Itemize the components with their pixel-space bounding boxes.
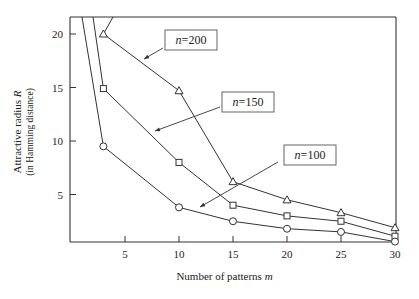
y-axis-label-sub: (in Hamming distance): [24, 88, 37, 176]
series-line-n-150: [93, 17, 395, 236]
circle-marker: [392, 238, 399, 245]
label-text-n-100: n=100: [295, 148, 326, 162]
circle-marker: [338, 228, 345, 235]
x-tick-label: 5: [122, 248, 128, 260]
y-tick-label: 5: [58, 189, 64, 201]
arrow-head-icon: [144, 55, 149, 59]
y-tick-label: 10: [52, 135, 64, 147]
chart-canvas: 510152025305101520 n=200n=150n=100: [0, 0, 419, 299]
y-axis-label: Attractive radius R (in Hamming distance…: [11, 88, 37, 176]
x-axis-label: Number of patterns m: [0, 270, 419, 282]
y-tick-label: 15: [52, 82, 64, 94]
x-axis-label-var: m: [265, 270, 273, 282]
triangle-marker: [175, 87, 183, 94]
x-tick-label: 20: [282, 248, 294, 260]
arrow-head-icon: [200, 203, 205, 207]
y-axis-label-var: R: [11, 90, 23, 97]
square-marker: [230, 202, 236, 208]
x-tick-label: 30: [390, 248, 402, 260]
arrow-line: [155, 107, 220, 131]
label-text-n-200: n=200: [176, 33, 207, 47]
y-tick-label: 20: [52, 28, 64, 40]
square-marker: [338, 218, 344, 224]
arrow-line: [200, 162, 278, 207]
annotations: n=200n=150n=100: [144, 30, 336, 207]
ticks: [70, 34, 395, 242]
square-marker: [100, 86, 106, 92]
x-axis-label-text: Number of patterns: [176, 270, 264, 282]
series-line-n-200: [103, 17, 395, 228]
series-line-n-100: [82, 17, 395, 242]
triangle-marker: [99, 30, 107, 37]
series-lines: [82, 17, 399, 245]
arrow-head-icon: [155, 127, 160, 131]
circle-marker: [230, 218, 237, 225]
y-axis-label-text: Attractive radius: [11, 97, 23, 173]
circle-marker: [100, 143, 107, 150]
label-text-n-150: n=150: [233, 95, 264, 109]
square-marker: [176, 159, 182, 165]
square-marker: [284, 213, 290, 219]
circle-marker: [176, 204, 183, 211]
circle-marker: [284, 225, 291, 232]
x-tick-label: 15: [228, 248, 240, 260]
x-tick-label: 10: [174, 248, 186, 260]
x-tick-label: 25: [336, 248, 348, 260]
triangle-marker: [229, 178, 237, 185]
